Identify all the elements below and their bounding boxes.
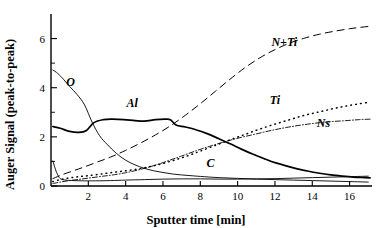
- y-tick-label-6: 6: [40, 33, 46, 45]
- curve-label-O: O: [66, 75, 75, 89]
- x-tick-label-6: 6: [160, 190, 166, 202]
- y-tick-label-0: 0: [40, 180, 46, 192]
- curve-label-Ti: Ti: [270, 93, 281, 107]
- chart-canvas: Auger Signal (peak-to-peak) Sputter time…: [0, 0, 380, 228]
- x-tick-label-8: 8: [198, 190, 204, 202]
- x-tick-label-2: 2: [86, 190, 92, 202]
- y-axis-title-text: Auger Signal (peak-to-peak): [3, 39, 17, 190]
- auger-depth-profile-figure: Auger Signal (peak-to-peak) Sputter time…: [0, 0, 380, 228]
- x-tick-label-16: 16: [344, 190, 356, 202]
- curve-label-C: C: [207, 156, 216, 170]
- y-tick-label-2: 2: [40, 131, 46, 143]
- curve-label-Ns: Ns: [316, 116, 331, 130]
- x-tick-label-4: 4: [123, 190, 129, 202]
- x-axis-title-text: Sputter time [min]: [146, 213, 245, 227]
- x-tick-label-10: 10: [232, 190, 244, 202]
- y-axis-title: Auger Signal (peak-to-peak): [3, 39, 17, 190]
- y-tick-label-4: 4: [40, 82, 46, 94]
- curve-label-Al: Al: [126, 96, 139, 110]
- x-tick-label-12: 12: [269, 190, 280, 202]
- curve-label-NplusTi: N+Ti: [270, 35, 297, 49]
- x-tick-label-14: 14: [307, 190, 319, 202]
